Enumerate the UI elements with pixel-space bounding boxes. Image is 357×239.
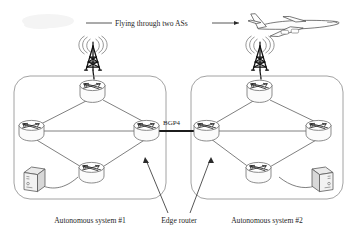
radio-tower-icon-right [246,36,274,79]
router-icon-as1-bottom [79,162,104,183]
airplane-icon [248,14,339,37]
flying-annotation-label: Flying through two ASs [115,19,188,28]
bgp4-link-label: BGP4 [163,119,181,127]
edge-router-callout: Edge router [143,157,214,225]
arrow-icon [143,157,149,163]
as-left-caption: Autonomous system #1 [54,216,126,225]
router-icon-as1-edge[interactable] [134,120,159,141]
edge-router-label: Edge router [161,216,197,225]
router-icon-as2-edge[interactable] [194,120,219,141]
network-diagram: Flying through two ASs [0,0,357,239]
router-icon-as2-top [247,80,272,102]
arrow-icon [208,157,214,163]
server-host-icon-right [312,167,333,192]
flying-annotation: Flying through two ASs [86,19,239,28]
router-icon-as2-bottom [246,162,271,183]
router-icon-as2-right [306,120,331,141]
server-host-icon-left [24,167,45,192]
as-right-caption: Autonomous system #2 [231,216,303,225]
arrow-icon [234,21,239,25]
radio-tower-icon-left [79,36,107,79]
router-icon-as1-left [19,120,44,141]
scan-artifact [22,14,74,29]
router-icon-as1-top [80,80,105,102]
